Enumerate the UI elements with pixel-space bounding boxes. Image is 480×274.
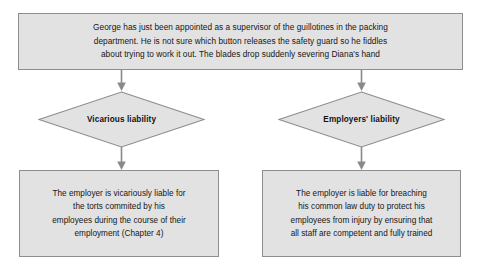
flowchart-canvas: George has just been appointed as a supe… [0,0,480,274]
connector-employers-to-outcome [355,147,368,171]
connector-scenario-to-employers [355,70,368,92]
decision-diamond-vicarious-label: Vicarious liability [38,91,205,148]
outcome-text-vicarious: The employer is vicariously liable for t… [46,187,192,239]
scenario-text: George has just been appointed as a supe… [87,21,394,62]
decision-diamond-employers-label: Employers' liability [278,91,445,148]
outcome-text-employers: The employer is liable for breaching his… [285,187,439,239]
decision-diamond-vicarious-liability: Vicarious liability [38,91,205,148]
decision-diamond-employers-liability: Employers' liability [278,91,445,148]
outcome-box-vicarious-liability: The employer is vicariously liable for t… [19,170,219,257]
connector-scenario-to-vicarious [115,70,128,92]
scenario-box: George has just been appointed as a supe… [18,13,463,70]
connector-vicarious-to-outcome [115,147,128,171]
outcome-box-employers-liability: The employer is liable for breaching his… [262,170,461,257]
